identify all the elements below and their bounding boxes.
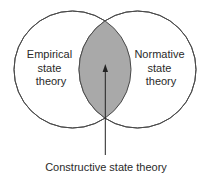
constructive-label: Constructive state theory (45, 161, 167, 173)
venn-diagram: Empirical state theory Normative state t… (0, 0, 207, 180)
